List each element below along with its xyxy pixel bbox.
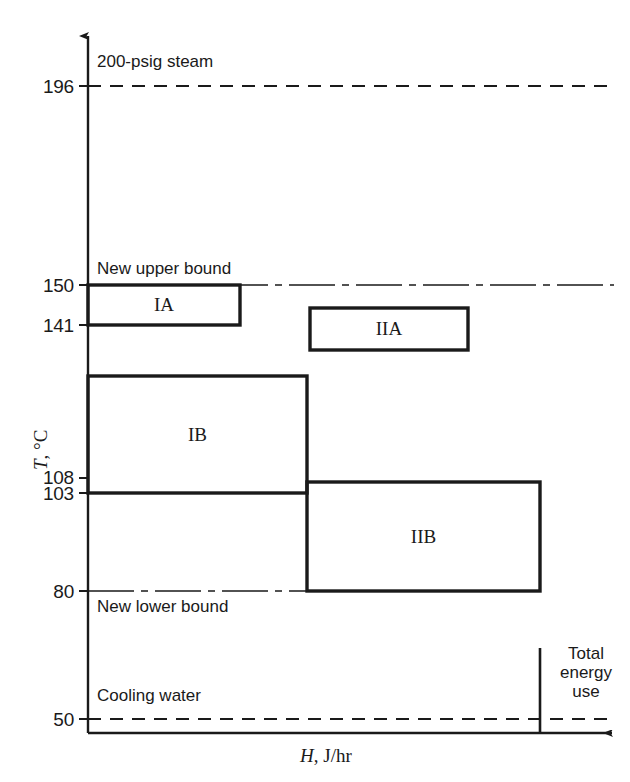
y-axis-title: T, °C — [30, 430, 52, 470]
x-axis-units: , J/hr — [314, 745, 352, 766]
total-energy-line-1: Total — [548, 644, 624, 663]
annotation-lower-bound: New lower bound — [97, 597, 228, 617]
total-energy-line-2: energy — [548, 663, 624, 682]
annotation-steam: 200-psig steam — [97, 52, 213, 72]
total-energy-use-note: Total energy use — [548, 644, 624, 701]
box-label-IIB: IIB — [307, 526, 540, 548]
y-axis-symbol: T — [30, 459, 51, 470]
total-energy-line-3: use — [548, 682, 624, 701]
box-label-IA: IA — [88, 294, 240, 316]
box-label-IB: IB — [88, 424, 307, 446]
y-tick-label-80: 80 — [12, 581, 74, 603]
annotation-upper-bound: New upper bound — [97, 259, 231, 279]
t-h-diagram — [0, 0, 630, 782]
x-axis-title: H, J/hr — [300, 745, 352, 767]
annotation-cooling-water: Cooling water — [97, 686, 201, 706]
y-tick-label-141: 141 — [12, 315, 74, 337]
x-axis-symbol: H — [300, 745, 314, 766]
y-tick-label-150: 150 — [12, 275, 74, 297]
figure-canvas: 196 150 141 108 103 80 50 200-psig steam… — [0, 0, 630, 782]
y-tick-label-103: 103 — [12, 483, 74, 505]
y-tick-label-50: 50 — [12, 709, 74, 731]
axis-lines — [88, 36, 612, 733]
y-axis-units: , °C — [30, 430, 51, 460]
y-tick-label-196: 196 — [12, 76, 74, 98]
box-label-IIA: IIA — [310, 318, 468, 340]
